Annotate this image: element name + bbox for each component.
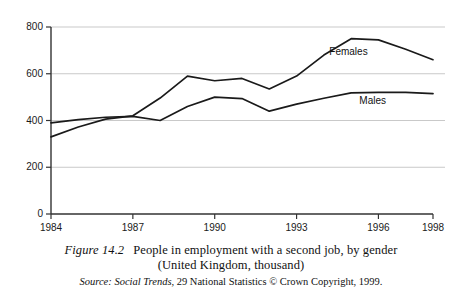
source-publication: Social Trends, <box>114 276 174 287</box>
data-series-group <box>51 39 433 137</box>
x-axis-label-1998: 1998 <box>413 222 453 233</box>
figure-caption: Figure 14.2People in employment with a s… <box>0 243 462 288</box>
series-label-females: Females <box>329 46 367 57</box>
caption-title: People in employment with a second job, … <box>133 243 397 257</box>
figure-container: 0200400600800 198419871990199319961998 F… <box>0 0 462 297</box>
caption-title-line: Figure 14.2People in employment with a s… <box>0 243 462 258</box>
line-chart-plot <box>0 0 462 243</box>
y-axis-label-400: 400 <box>9 115 43 126</box>
x-axis-label-1990: 1990 <box>195 222 235 233</box>
source-rest: 29 National Statistics © Crown Copyright… <box>177 276 383 287</box>
x-axis-label-1984: 1984 <box>31 222 71 233</box>
figure-number: Figure 14.2 <box>65 243 125 257</box>
x-axis-label-1987: 1987 <box>113 222 153 233</box>
source-prefix: Source: <box>80 276 112 287</box>
y-axis-label-200: 200 <box>9 161 43 172</box>
y-axis-label-600: 600 <box>9 68 43 79</box>
y-axis-label-0: 0 <box>9 208 43 219</box>
x-axis-label-1993: 1993 <box>277 222 317 233</box>
caption-subtitle: (United Kingdom, thousand) <box>0 258 462 273</box>
series-line-females <box>51 39 433 137</box>
series-label-males: Males <box>359 95 386 106</box>
gridlines-group <box>51 27 445 214</box>
x-tick-marks-group <box>51 214 433 219</box>
x-axis-label-1996: 1996 <box>358 222 398 233</box>
y-axis-label-800: 800 <box>9 21 43 32</box>
source-line: Source: Social Trends, 29 National Stati… <box>0 276 462 289</box>
y-tick-marks-group <box>46 27 51 214</box>
